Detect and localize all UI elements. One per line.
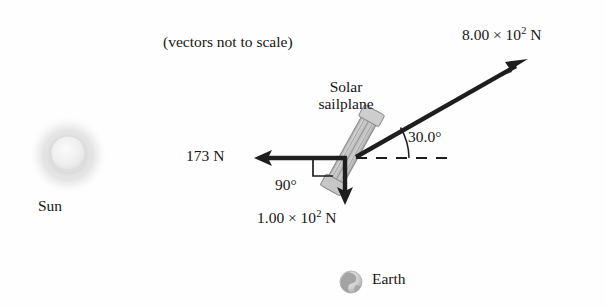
force-800n-mantissa: 8.00 × 10	[462, 26, 521, 43]
earth-body	[340, 271, 362, 294]
vector-173n	[254, 150, 347, 166]
label-earth: Earth	[372, 270, 406, 287]
note-vectors-not-to-scale: (vectors not to scale)	[163, 33, 293, 50]
force-100n-mantissa: 1.00 × 10	[257, 209, 316, 226]
force-100n-unit: N	[321, 209, 336, 226]
vector-thrust-arrowhead	[500, 59, 528, 76]
label-force-173n: 173 N	[186, 147, 224, 164]
label-angle-30: 30.0°	[408, 128, 441, 145]
solar-sailplane-craft	[320, 104, 385, 196]
solar-sailplane-diagram	[0, 0, 606, 307]
label-sun: Sun	[38, 197, 62, 214]
label-force-100n: 1.00 × 102 N	[257, 209, 336, 226]
label-force-800n: 8.00 × 102 N	[462, 26, 541, 43]
label-solar-sailplane: Solarsailplane	[303, 78, 389, 113]
craft-label-line1: Solar	[330, 78, 363, 95]
sun-body	[28, 115, 108, 195]
craft-label-line2: sailplane	[318, 95, 373, 112]
label-angle-90: 90°	[275, 176, 297, 193]
force-800n-unit: N	[526, 26, 541, 43]
